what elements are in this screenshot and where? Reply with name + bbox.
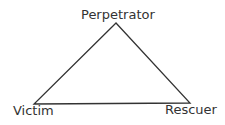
node-label-perpetrator: Perpetrator (81, 8, 155, 21)
node-label-rescuer: Rescuer (165, 103, 217, 116)
node-label-victim: Victim (13, 104, 54, 117)
triangle-shape (34, 23, 190, 104)
